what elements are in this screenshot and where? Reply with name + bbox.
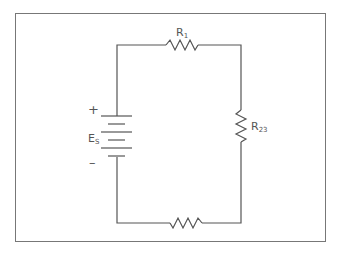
resistor-r1: [166, 40, 198, 50]
resistor-bottom: [170, 218, 202, 228]
label-r1: R1: [176, 27, 188, 40]
circuit-schematic: [0, 0, 342, 253]
positive-terminal-sign: +: [88, 103, 99, 116]
label-es-sub: S: [95, 138, 99, 146]
resistor-r23: [236, 110, 246, 142]
label-r23-sub: 23: [259, 126, 268, 134]
label-r23-main: R: [251, 120, 259, 133]
label-es-main: E: [88, 132, 95, 145]
label-r1-main: R: [176, 26, 184, 39]
battery-es: [101, 116, 132, 156]
wire-left-top: [117, 45, 166, 116]
label-r1-sub: 1: [184, 32, 188, 40]
wire-bottom-left: [117, 157, 170, 223]
negative-terminal-sign: –: [89, 156, 96, 169]
label-r23: R23: [251, 121, 268, 134]
wire-top-right: [198, 45, 241, 110]
wire-right-bottom: [202, 142, 241, 223]
label-es: ES: [88, 133, 99, 146]
